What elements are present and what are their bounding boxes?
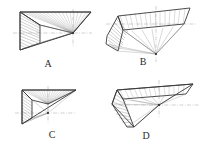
figure-b-vanishing-point bbox=[155, 53, 157, 55]
figure-sheet: A bbox=[0, 0, 206, 149]
figure-d-vanishing-point bbox=[158, 104, 160, 106]
figure-b-left-wing-hatch bbox=[108, 19, 128, 50]
figure-c-vanishing-point bbox=[47, 112, 49, 114]
figure-c-label: C bbox=[49, 129, 56, 140]
figure-a-top-face-hatch bbox=[22, 12, 89, 33]
figure-a-silhouette bbox=[20, 12, 91, 50]
figure-a-vanishing-point bbox=[72, 32, 74, 34]
figure-d-label: D bbox=[142, 130, 149, 141]
figure-b-converging-rays bbox=[106, 24, 184, 54]
drawing-canvas: A bbox=[0, 0, 206, 149]
figure-c: C bbox=[15, 86, 76, 140]
figure-c-silhouette bbox=[22, 90, 76, 124]
figure-a-label: A bbox=[44, 58, 52, 69]
figure-d: D bbox=[111, 80, 200, 141]
figure-a-left-face-hatch bbox=[20, 15, 40, 48]
figure-c-left-face-hatch bbox=[22, 93, 32, 122]
figure-d-silhouette bbox=[112, 84, 193, 127]
figure-b: B bbox=[106, 6, 196, 67]
figure-b-top-plate bbox=[118, 8, 190, 30]
figure-a: A bbox=[13, 9, 92, 69]
figure-b-label: B bbox=[140, 56, 147, 67]
